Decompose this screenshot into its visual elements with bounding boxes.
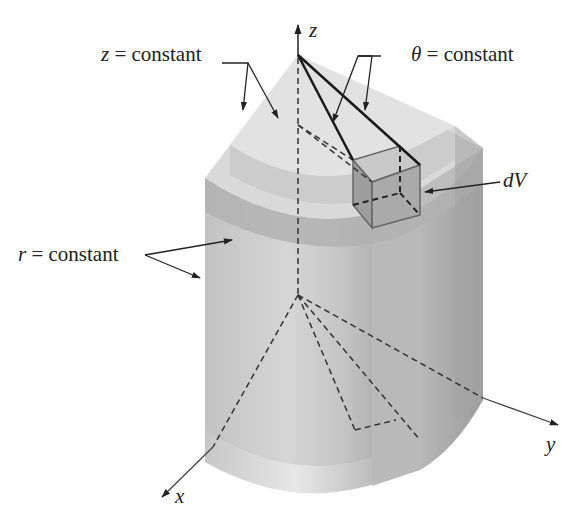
cylindrical-volume-element-diagram: z x y z = constant θ = constant r = cons… (0, 0, 577, 532)
y-axis (483, 398, 558, 425)
z-constant-text: = constant (109, 42, 201, 66)
z-axis-label: z (309, 20, 317, 41)
z-constant-var: z (101, 42, 109, 66)
theta-constant-label: θ = constant (411, 44, 514, 65)
wedge-strip-surface (372, 208, 420, 486)
theta-constant-text: = constant (421, 42, 513, 66)
r-constant-label: r = constant (18, 244, 119, 265)
x-axis-label: x (175, 486, 184, 507)
x-axis-label-text: x (175, 484, 184, 508)
r-constant-var: r (18, 242, 26, 266)
right-edge-surface (455, 126, 483, 420)
z-axis-label-text: z (309, 18, 317, 42)
y-axis-label: y (546, 434, 555, 455)
r-constant-text: = constant (26, 242, 118, 266)
z-constant-label: z = constant (101, 44, 202, 65)
dV-label: dV (503, 170, 526, 191)
diagram-canvas (0, 0, 577, 532)
y-axis-label-text: y (546, 432, 555, 456)
dV-volume-element (353, 146, 420, 228)
theta-constant-var: θ (411, 42, 421, 66)
x-axis (162, 447, 213, 497)
